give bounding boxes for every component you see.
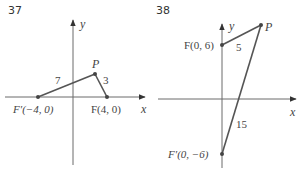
y-axis-label: y — [228, 19, 235, 33]
label-f: F(0, 6) — [184, 39, 214, 52]
point-p — [93, 72, 97, 76]
segment-f-prime-to-p — [38, 74, 95, 97]
y-axis-label: y — [79, 17, 86, 31]
segment-f-prime-to-p — [222, 25, 261, 154]
x-axis-label: x — [289, 105, 296, 119]
label-f-prime: F′(0, −6) — [167, 148, 209, 161]
x-axis-label: x — [140, 102, 147, 116]
point-f-prime — [220, 152, 224, 156]
figure-number: 38 — [156, 4, 170, 17]
point-p — [259, 23, 263, 27]
label-f-prime: F′(−4, 0) — [12, 103, 54, 116]
segment-label-3: 3 — [103, 74, 109, 86]
diagram-canvas: 37 y x P 7 3 F′(−4, 0) F(4, 0) 38 y x P … — [0, 0, 306, 178]
label-p: P — [264, 20, 273, 34]
figure-38: 38 y x P F(0, 6) 5 15 F′(0, −6) — [156, 4, 296, 168]
point-f — [220, 43, 224, 47]
segment-label-7: 7 — [55, 74, 61, 86]
segment-label-5: 5 — [236, 41, 242, 53]
point-f — [105, 95, 109, 99]
segment-label-15: 15 — [236, 118, 248, 130]
figure-37: 37 y x P 7 3 F′(−4, 0) F(4, 0) — [5, 4, 147, 165]
point-f-prime — [36, 95, 40, 99]
label-p: P — [91, 57, 100, 71]
figure-number: 37 — [8, 4, 22, 17]
label-f: F(4, 0) — [91, 103, 121, 116]
